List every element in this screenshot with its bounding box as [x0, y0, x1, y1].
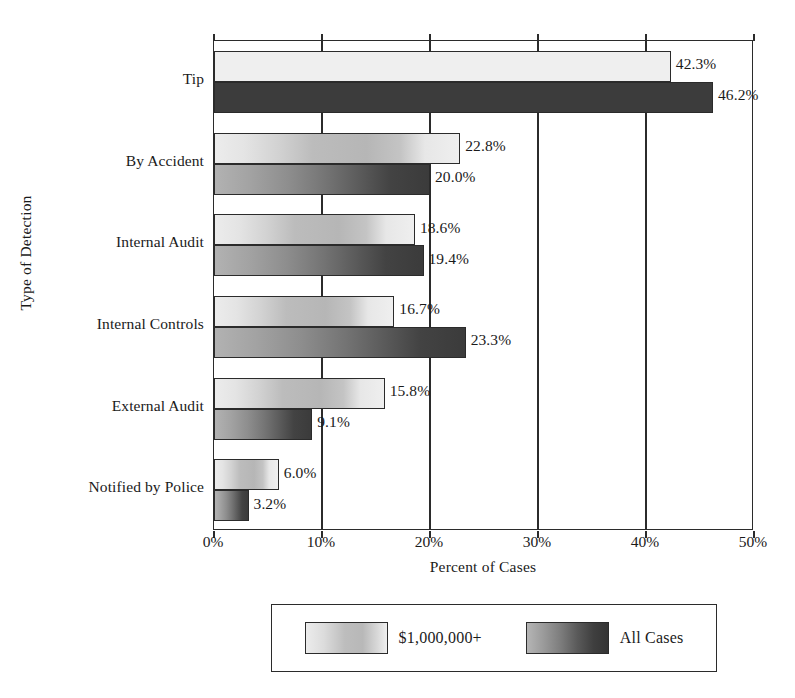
x-axis-tick-top	[645, 34, 646, 41]
legend-entry[interactable]: All Cases	[526, 622, 684, 654]
legend-swatch-dark	[526, 622, 609, 654]
gridline	[321, 41, 322, 529]
bar-million-plus[interactable]	[214, 378, 385, 409]
bar-million-plus[interactable]	[214, 51, 671, 82]
bar-all-cases[interactable]	[214, 164, 430, 195]
gridline	[537, 41, 538, 529]
plot-area	[213, 40, 753, 530]
bar-value-label: 3.2%	[254, 495, 287, 513]
legend-label: All Cases	[620, 629, 684, 647]
category-label: By Accident	[0, 152, 204, 170]
bar-value-label: 42.3%	[676, 55, 717, 73]
bar-all-cases[interactable]	[214, 245, 424, 276]
bar-value-label: 16.7%	[399, 300, 440, 318]
bar-value-label: 19.4%	[429, 250, 470, 268]
x-axis-tick-label: 30%	[523, 533, 551, 551]
x-axis-tick-top	[537, 34, 538, 41]
x-axis-tick-top	[321, 34, 322, 41]
category-label: Notified by Police	[0, 478, 204, 496]
gridline	[429, 41, 430, 529]
legend-entry[interactable]: $1,000,000+	[305, 622, 482, 654]
category-label: Tip	[0, 70, 204, 88]
x-axis-tick-label: 20%	[415, 533, 443, 551]
x-axis-tick-label: 10%	[307, 533, 335, 551]
bar-million-plus[interactable]	[214, 214, 415, 245]
x-axis-tick-top	[429, 34, 430, 41]
category-label: Internal Controls	[0, 315, 204, 333]
bar-million-plus[interactable]	[214, 459, 279, 490]
x-axis-tick-label: 50%	[739, 533, 767, 551]
bar-value-label: 18.6%	[420, 219, 461, 237]
bar-all-cases[interactable]	[214, 409, 312, 440]
x-axis-tick-top	[213, 34, 214, 41]
chart-legend: $1,000,000+All Cases	[271, 604, 717, 672]
legend-swatch-light	[305, 622, 388, 654]
bar-all-cases[interactable]	[214, 490, 249, 521]
bar-value-label: 9.1%	[317, 413, 350, 431]
x-axis-tick-top	[753, 34, 754, 41]
bar-all-cases[interactable]	[214, 82, 713, 113]
bar-chart-figure: Type of Detection TipBy AccidentInternal…	[0, 0, 795, 698]
bar-value-label: 15.8%	[390, 382, 431, 400]
bar-million-plus[interactable]	[214, 133, 460, 164]
x-axis-tick-label: 40%	[631, 533, 659, 551]
gridline	[645, 41, 646, 529]
legend-label: $1,000,000+	[399, 629, 482, 647]
bar-value-label: 23.3%	[471, 331, 512, 349]
bar-value-label: 20.0%	[435, 168, 476, 186]
category-label: Internal Audit	[0, 233, 204, 251]
category-label: External Audit	[0, 397, 204, 415]
bar-million-plus[interactable]	[214, 296, 394, 327]
x-axis-title: Percent of Cases	[213, 558, 753, 576]
bar-value-label: 6.0%	[284, 464, 317, 482]
bar-value-label: 46.2%	[718, 86, 759, 104]
bar-value-label: 22.8%	[465, 137, 506, 155]
x-axis-tick-label: 0%	[203, 533, 224, 551]
bar-all-cases[interactable]	[214, 327, 466, 358]
